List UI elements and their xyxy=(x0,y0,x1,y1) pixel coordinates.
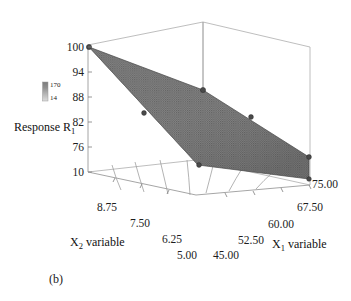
z-tick-label-88: 88 xyxy=(73,91,85,103)
x1-tick-label-45-00: 45.00 xyxy=(213,249,239,261)
colorbar-max-label: 170 xyxy=(50,81,61,89)
z-axis-title: Response R1 xyxy=(14,120,75,136)
z-tick-label-94: 94 xyxy=(73,66,85,78)
surface-plot-3d: 100 94 88 82 76 10 Response R1 8.75 7.50… xyxy=(0,0,351,301)
x2-axis-title-suffix: variable xyxy=(83,235,125,249)
data-point-marker xyxy=(200,87,205,92)
x1-axis-title: X1 variable xyxy=(272,237,327,253)
x1-tick-label-75-00: 75.00 xyxy=(312,178,338,190)
x1-tick-mark xyxy=(253,191,255,195)
x2-tick-label-6-25: 6.25 xyxy=(162,233,182,245)
x1-axis-title-main: X xyxy=(272,237,281,251)
x1-tick-mark xyxy=(281,188,283,192)
colorbar-min-label: 14 xyxy=(50,94,58,102)
x1-tick-label-52-50: 52.50 xyxy=(238,234,264,246)
box-top-back-left-edge xyxy=(88,22,203,45)
z-axis-title-text: Response R1 xyxy=(14,120,75,136)
x1-axis-title-suffix: variable xyxy=(285,237,327,251)
x1-axis-title-text: X1 variable xyxy=(272,237,327,253)
x2-axis-title: X2 variable xyxy=(70,235,125,251)
x1-tick-label-60-00: 60.00 xyxy=(268,218,294,230)
x2-tick-label-8-75: 8.75 xyxy=(97,201,117,213)
z-tick-label-100: 100 xyxy=(67,41,85,53)
z-tick-label-76: 76 xyxy=(73,141,85,153)
x2-tick-label-5-00: 5.00 xyxy=(177,249,197,261)
figure-caption: (b) xyxy=(49,272,63,286)
response-surface-plane xyxy=(89,47,309,179)
box-top-back-right-edge xyxy=(203,22,310,47)
contour-line xyxy=(160,160,168,194)
x2-axis-title-main: X xyxy=(70,235,79,249)
z-axis-title-main: Response R xyxy=(14,120,71,134)
x2-axis-title-text: X2 variable xyxy=(70,235,125,251)
x1-tick-mark xyxy=(309,185,311,189)
floor-edge-x2-axis xyxy=(88,172,196,195)
data-point-marker xyxy=(307,155,312,160)
z-tick-label-10: 10 xyxy=(73,166,85,178)
x1-tick-label-67-50: 67.50 xyxy=(297,201,323,213)
data-point-marker xyxy=(307,177,312,182)
x2-tick-label-7-50: 7.50 xyxy=(130,217,150,229)
x2-tick-mark xyxy=(113,178,115,182)
data-point-marker xyxy=(197,163,202,168)
surface-shading-overlay xyxy=(89,47,309,179)
floor-edge-back-left xyxy=(88,160,196,172)
data-point-marker xyxy=(142,111,147,116)
colorbar-gradient xyxy=(43,82,49,101)
contour-line xyxy=(187,160,190,195)
floor-edge-x1-axis xyxy=(196,185,310,195)
contour-line xyxy=(256,173,272,189)
color-legend: 170 14 xyxy=(43,81,62,102)
z-axis-title-subscript: 1 xyxy=(71,126,75,136)
figure-panel: 100 94 88 82 76 10 Response R1 8.75 7.50… xyxy=(0,0,351,301)
data-point-marker xyxy=(249,115,254,120)
x1-tick-mark xyxy=(225,193,227,197)
